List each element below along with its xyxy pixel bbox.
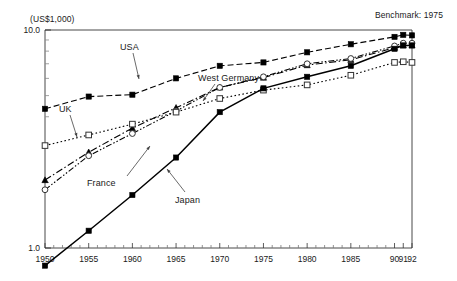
- series-marker-uk: [348, 72, 354, 78]
- series-marker-uk: [42, 143, 48, 149]
- series-marker-japan: [348, 63, 353, 68]
- series-marker-japan: [42, 263, 47, 268]
- arrow-uk-head: [74, 133, 77, 137]
- series-marker-uk: [173, 109, 179, 115]
- x-tick-label: 1985: [341, 254, 360, 264]
- x-tick-label: 92: [407, 254, 417, 264]
- series-marker-usa: [173, 76, 178, 81]
- series-marker-usa: [130, 92, 135, 97]
- series-marker-japan: [392, 46, 397, 51]
- annotation-france: France: [87, 178, 116, 188]
- series-marker-uk: [392, 60, 398, 66]
- annotation-usa: USA: [120, 42, 139, 52]
- series-marker-usa: [305, 50, 310, 55]
- x-tick-label: 1980: [298, 254, 317, 264]
- y-tick-label: 10.0: [23, 25, 40, 35]
- chart-figure: (US$1,000) Benchmark: 1975 1.010.0195019…: [0, 0, 457, 281]
- x-tick-label: 1950: [36, 254, 55, 264]
- x-tick-label: 1975: [254, 254, 273, 264]
- arrow-france: [127, 146, 150, 176]
- series-marker-usa: [217, 63, 222, 68]
- series-marker-usa: [42, 106, 47, 111]
- series-marker-usa: [261, 60, 266, 65]
- series-marker-france: [261, 74, 267, 80]
- series-marker-japan: [305, 74, 310, 79]
- x-tick-label: 1970: [210, 254, 229, 264]
- annotation-japan: Japan: [175, 195, 200, 205]
- series-marker-uk: [217, 96, 223, 102]
- series-marker-usa: [348, 42, 353, 47]
- series-marker-japan: [401, 43, 406, 48]
- series-marker-uk: [400, 59, 406, 65]
- series-marker-france: [304, 61, 310, 67]
- x-tick-label: 1965: [167, 254, 186, 264]
- y-tick-label: 1.0: [28, 243, 40, 253]
- series-marker-usa: [401, 32, 406, 37]
- series-marker-west-germany: [42, 177, 48, 183]
- chart-plot-area: 1.010.0195019551960196519701975198019859…: [0, 0, 457, 281]
- series-marker-japan: [261, 86, 266, 91]
- arrow-usa: [133, 53, 139, 79]
- series-marker-usa: [86, 94, 91, 99]
- series-marker-usa: [409, 33, 414, 38]
- series-marker-japan: [217, 110, 222, 115]
- series-marker-japan: [86, 228, 91, 233]
- x-tick-label: 1955: [79, 254, 98, 264]
- arrow-japan: [167, 169, 185, 192]
- series-marker-japan: [409, 43, 414, 48]
- series-marker-japan: [130, 192, 135, 197]
- series-marker-france: [348, 56, 354, 62]
- series-marker-usa: [392, 34, 397, 39]
- annotation-west-germany: West Germany: [198, 73, 259, 83]
- arrow-west-germany-head: [203, 97, 207, 101]
- annotation-uk: UK: [59, 104, 72, 114]
- series-marker-france: [42, 187, 48, 193]
- series-marker-uk: [409, 60, 415, 66]
- series-marker-uk: [304, 82, 310, 88]
- series-marker-france: [129, 131, 135, 137]
- x-tick-label: 1960: [123, 254, 142, 264]
- series-line-usa: [45, 35, 412, 109]
- series-marker-france: [86, 153, 92, 159]
- series-marker-uk: [130, 121, 136, 127]
- series-marker-japan: [173, 155, 178, 160]
- series-marker-uk: [86, 132, 92, 138]
- series-marker-france: [217, 85, 223, 91]
